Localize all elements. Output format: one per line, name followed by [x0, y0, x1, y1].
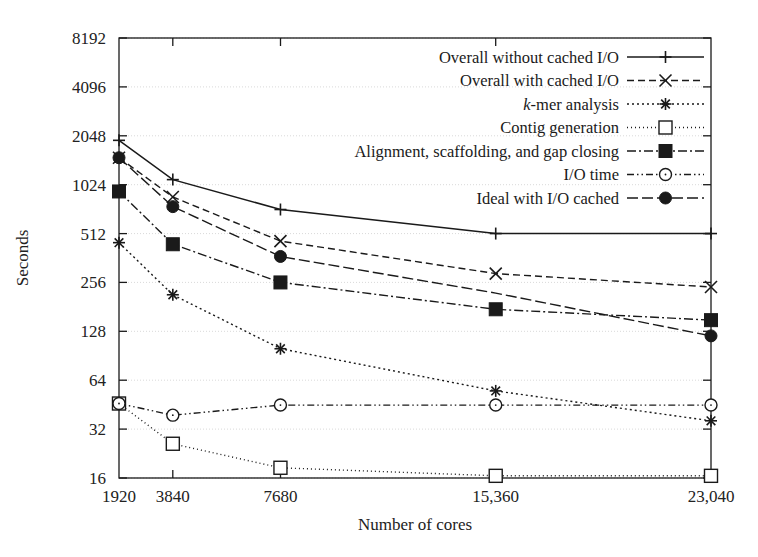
y-tick-label: 4096 — [72, 78, 106, 97]
y-tick-label: 32 — [89, 420, 106, 439]
y-tick-label: 1024 — [72, 176, 107, 195]
y-tick-label: 128 — [81, 322, 107, 341]
y-tick-label: 512 — [81, 225, 107, 244]
legend-label-6: I/O time — [564, 165, 619, 184]
y-tick-label: 2048 — [72, 127, 106, 146]
series-2 — [113, 152, 717, 293]
legend: Overall without cached I/OOverall with c… — [354, 48, 704, 208]
plot-frame — [119, 38, 711, 478]
x-tick-label: 15,360 — [472, 487, 519, 506]
x-tick-label: 3840 — [156, 487, 190, 506]
series-4 — [113, 397, 718, 482]
x-axis: 19203840768015,36023,040 — [102, 38, 734, 506]
x-tick-label: 23,040 — [688, 487, 735, 506]
legend-label-4: Contig generation — [500, 118, 619, 137]
legend-label-1: Overall without cached I/O — [439, 48, 619, 67]
chart-canvas: 1632641282565121024204840968192192038407… — [0, 0, 758, 557]
figure-log-scaling-chart: 1632641282565121024204840968192192038407… — [0, 0, 758, 557]
x-tick-label: 7680 — [264, 487, 298, 506]
y-tick-label: 16 — [89, 469, 106, 488]
series-7 — [113, 152, 717, 342]
y-tick-label: 8192 — [72, 29, 106, 48]
x-tick-label: 1920 — [102, 487, 136, 506]
legend-label-7: Ideal with I/O cached — [477, 189, 620, 208]
grid-lines — [119, 38, 711, 478]
y-tick-label: 64 — [89, 371, 107, 390]
legend-label-5: Alignment, scaffolding, and gap closing — [354, 142, 619, 161]
legend-label-2: Overall with cached I/O — [460, 71, 619, 90]
legend-label-3: k-mer analysis — [523, 95, 619, 114]
x-axis-title: Number of cores — [358, 515, 472, 534]
y-tick-label: 256 — [81, 273, 107, 292]
series-5 — [113, 185, 718, 327]
y-axis-title: Seconds — [13, 230, 32, 287]
